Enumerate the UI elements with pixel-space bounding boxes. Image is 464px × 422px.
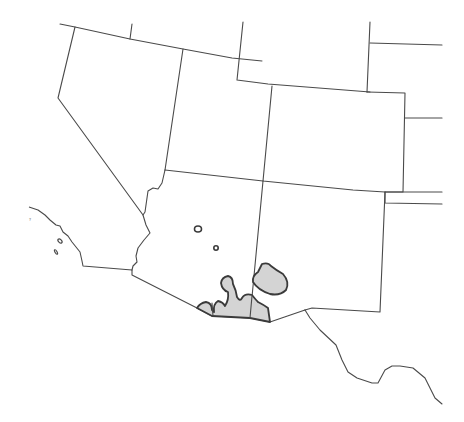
colorado-river-boundary xyxy=(132,170,165,270)
isolated-population-2 xyxy=(214,246,218,250)
range-map: ? xyxy=(0,0,464,422)
california-coast xyxy=(29,207,132,270)
isolated-population-1 xyxy=(195,226,202,232)
northern-boundary xyxy=(60,24,262,61)
rio-grande xyxy=(305,310,442,404)
id-wy-boundary xyxy=(237,22,370,92)
island-2 xyxy=(54,249,58,254)
sw-nm-range xyxy=(253,263,288,294)
or-id-boundary xyxy=(130,24,132,39)
tiny-label: ? xyxy=(29,217,31,222)
nv-ut-boundary xyxy=(165,49,183,170)
map-canvas: ? xyxy=(0,0,464,422)
nm-tx-boundary xyxy=(305,192,385,312)
ok-panhandle xyxy=(385,192,442,204)
sd-ne-boundary xyxy=(370,43,442,45)
colorado-outline xyxy=(263,86,405,192)
wy-north-boundary xyxy=(367,22,370,92)
ca-nv-boundary xyxy=(58,27,143,215)
island-1 xyxy=(57,238,63,244)
ut-az-boundary xyxy=(165,170,263,181)
